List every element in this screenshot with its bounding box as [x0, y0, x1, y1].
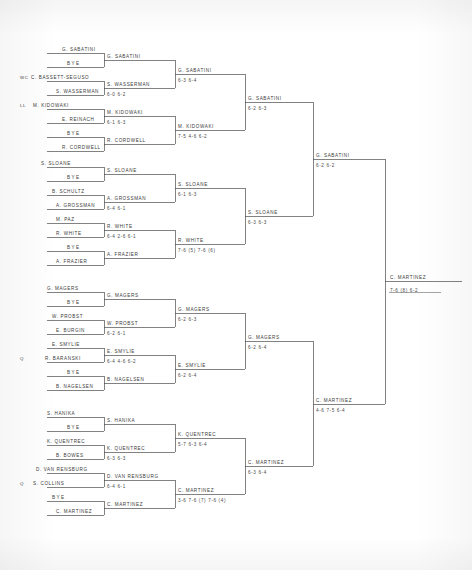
- r1-player-5[interactable]: E. REINACH: [62, 117, 95, 123]
- r1-seed-29: Q: [20, 481, 24, 486]
- r2-player-13[interactable]: K. QUENTREC: [107, 446, 145, 452]
- r2-player-4[interactable]: S. SLOANE: [107, 168, 137, 174]
- r2-player-7[interactable]: A. FRAZIER: [107, 252, 138, 258]
- qf-score-2: 6-2 6-4: [248, 345, 267, 351]
- r1-player-4[interactable]: M. KIDOWAKI: [33, 103, 69, 109]
- r1-player-25[interactable]: BYE: [67, 425, 80, 431]
- r3-score-4: 6-2 6-3: [178, 317, 197, 323]
- r1-player-2[interactable]: C. BASSETT-SEGUSO: [31, 75, 89, 81]
- r2-player-8[interactable]: G. MAGERS: [107, 293, 139, 299]
- r1-player-17[interactable]: BYE: [67, 300, 80, 306]
- qf-player-1[interactable]: S. SLOANE: [248, 210, 278, 216]
- r2-score-1: 6-0 6-2: [107, 92, 126, 98]
- r1-player-31[interactable]: C. MARTINEZ: [56, 509, 92, 515]
- qf-player-3[interactable]: C. MARTINEZ: [248, 460, 284, 466]
- r2-player-14[interactable]: D. VAN RENSBURG: [107, 474, 159, 480]
- r2-player-1[interactable]: S. WASSERMAN: [107, 82, 150, 88]
- r3-score-3: 7-6 (5) 7-6 (6): [178, 248, 216, 254]
- r2-rules: [104, 60, 175, 508]
- r3-player-3[interactable]: R. WHITE: [178, 238, 204, 244]
- r1-player-8[interactable]: S. SLOANE: [41, 161, 71, 167]
- r3-player-5[interactable]: E. SMYLIE: [178, 363, 206, 369]
- r3-player-4[interactable]: G. MAGERS: [178, 307, 210, 313]
- bracket-connector-lines: [0, 0, 472, 570]
- r2-player-12[interactable]: S. HANIKA: [107, 418, 135, 424]
- r1-player-28[interactable]: D. VAN RENSBURG: [36, 467, 88, 473]
- r1-player-24[interactable]: S. HANIKA: [47, 411, 75, 417]
- qf-score-1: 6-3 6-3: [248, 220, 267, 226]
- sf-player-1[interactable]: C. MARTINEZ: [316, 398, 352, 404]
- r1-seed-21: Q: [20, 356, 24, 361]
- r1-seed-4: LL: [20, 103, 26, 108]
- r1-player-27[interactable]: B. BOWES: [56, 453, 84, 459]
- r2-score-14: 6-4 6-1: [107, 484, 126, 490]
- r2-score-10: 6-4 4-6 6-2: [107, 359, 136, 365]
- sf-score-0: 6-2 6-2: [316, 163, 335, 169]
- r3-player-7[interactable]: C. MARTINEZ: [178, 488, 214, 494]
- r3-player-0[interactable]: G. SABATINI: [178, 68, 212, 74]
- r2-player-5[interactable]: A. GROSSMAN: [107, 196, 146, 202]
- r3-score-0: 6-3 6-4: [178, 78, 197, 84]
- r1-player-20[interactable]: E. SMYLIE: [52, 342, 80, 348]
- r1-player-18[interactable]: W. PROBST: [52, 314, 83, 320]
- r2-score-5: 6-4 6-1: [107, 206, 126, 212]
- r2-score-13: 6-3 6-3: [107, 456, 126, 462]
- sf-rules: [313, 159, 385, 404]
- r1-player-7[interactable]: R. CORDWELL: [62, 145, 101, 151]
- r2-player-3[interactable]: R. CORDWELL: [107, 138, 146, 144]
- final-score: 7-6 (8) 6-2: [390, 288, 418, 294]
- r1-player-22[interactable]: BYE: [67, 370, 80, 376]
- r2-player-0[interactable]: G. SABATINI: [107, 54, 141, 60]
- r2-player-11[interactable]: B. NAGELSEN: [107, 377, 144, 383]
- r1-player-15[interactable]: A. FRAZIER: [56, 259, 87, 265]
- champion-name[interactable]: C. MARTINEZ: [390, 275, 426, 281]
- r1-seed-2: WC: [20, 75, 28, 80]
- sf-player-0[interactable]: G. SABATINI: [316, 153, 350, 159]
- qf-score-3: 6-3 6-4: [248, 470, 267, 476]
- r2-score-2: 6-1 6-3: [107, 120, 126, 126]
- qf-score-0: 6-2 6-3: [248, 106, 267, 112]
- r3-player-6[interactable]: K. QUENTREC: [178, 432, 216, 438]
- r1-player-16[interactable]: G. MAGERS: [47, 286, 79, 292]
- r1-player-0[interactable]: G. SABATINI: [62, 47, 96, 53]
- r1-player-10[interactable]: B. SCHULTZ: [52, 189, 85, 195]
- r3-score-7: 3-6 7-6 (7) 7-6 (4): [178, 498, 226, 504]
- r1-player-3[interactable]: S. WASSERMAN: [56, 89, 99, 95]
- r1-player-30[interactable]: BYE: [52, 495, 65, 501]
- r3-score-5: 6-2 6-4: [178, 373, 197, 379]
- r1-player-1[interactable]: BYE: [67, 61, 80, 67]
- r3-score-2: 6-1 6-3: [178, 192, 197, 198]
- r1-player-12[interactable]: M. PAZ: [56, 217, 75, 223]
- r1-player-11[interactable]: A. GROSSMAN: [56, 203, 95, 209]
- r1-player-13[interactable]: R. WHITE: [56, 231, 82, 237]
- sf-score-1: 4-6 7-5 6-4: [316, 408, 345, 414]
- r2-player-9[interactable]: W. PROBST: [107, 321, 138, 327]
- r3-player-2[interactable]: S. SLOANE: [178, 182, 208, 188]
- r2-player-10[interactable]: E. SMYLIE: [107, 349, 135, 355]
- tournament-bracket: G. SABATINI BYE WC C. BASSETT-SEGUSO S. …: [0, 0, 472, 570]
- r1-player-9[interactable]: BYE: [67, 175, 80, 181]
- r2-score-6: 6-4 2-6 6-1: [107, 234, 136, 240]
- r1-player-19[interactable]: E. BURGIN: [56, 328, 85, 334]
- r2-player-6[interactable]: R. WHITE: [107, 224, 133, 230]
- r1-player-23[interactable]: B. NAGELSEN: [56, 384, 93, 390]
- r1-player-26[interactable]: K. QUENTREC: [47, 439, 85, 445]
- r2-score-9: 6-2 6-1: [107, 331, 126, 337]
- r2-player-2[interactable]: M. KIDOWAKI: [107, 110, 143, 116]
- qf-player-2[interactable]: G. MAGERS: [248, 335, 280, 341]
- r1-player-6[interactable]: BYE: [67, 131, 80, 137]
- qf-rules: [245, 102, 313, 466]
- r3-player-1[interactable]: M. KIDOWAKI: [178, 124, 214, 130]
- r1-player-29[interactable]: S. COLLINS: [33, 481, 64, 487]
- qf-player-0[interactable]: G. SABATINI: [248, 96, 282, 102]
- r1-player-21[interactable]: R. BARANSKI: [45, 356, 81, 362]
- r3-score-6: 5-7 6-3 6-4: [178, 442, 207, 448]
- r3-score-1: 7-5 4-6 6-2: [178, 134, 207, 140]
- r2-player-15[interactable]: C. MARTINEZ: [107, 502, 143, 508]
- r1-player-14[interactable]: BYE: [67, 245, 80, 251]
